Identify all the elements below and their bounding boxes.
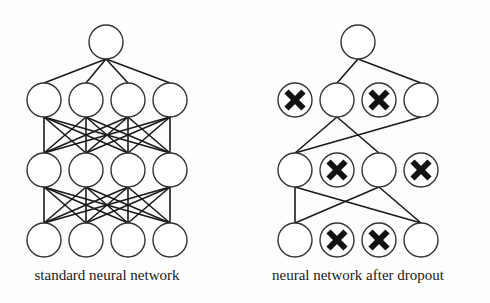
- dropout-network-caption: neural network after dropout: [272, 267, 445, 283]
- neuron: [278, 223, 312, 257]
- neuron: [69, 83, 103, 117]
- neuron: [27, 83, 61, 117]
- neuron: [111, 223, 145, 257]
- neuron: [404, 83, 438, 117]
- neuron: [341, 25, 375, 59]
- neuron: [320, 83, 354, 117]
- neuron: [89, 25, 123, 59]
- neuron: [153, 83, 187, 117]
- neuron: [278, 153, 312, 187]
- neuron: [153, 153, 187, 187]
- neuron: [404, 223, 438, 257]
- neuron: [69, 223, 103, 257]
- connection: [106, 59, 170, 83]
- connection: [358, 59, 421, 83]
- neuron: [27, 153, 61, 187]
- neuron: [153, 223, 187, 257]
- neuron: [27, 223, 61, 257]
- neuron: [69, 153, 103, 187]
- connections: [295, 59, 421, 223]
- neuron: [111, 153, 145, 187]
- neuron: [362, 153, 396, 187]
- neuron: [111, 83, 145, 117]
- dropout-network: [278, 25, 438, 257]
- dropout-diagram: standard neural network neural network a…: [0, 0, 490, 303]
- connection: [295, 187, 379, 223]
- standard-network-caption: standard neural network: [35, 267, 180, 283]
- connection: [295, 187, 421, 223]
- connections: [44, 59, 170, 223]
- standard-network: [27, 25, 187, 257]
- connection: [337, 59, 358, 83]
- connection: [295, 117, 421, 153]
